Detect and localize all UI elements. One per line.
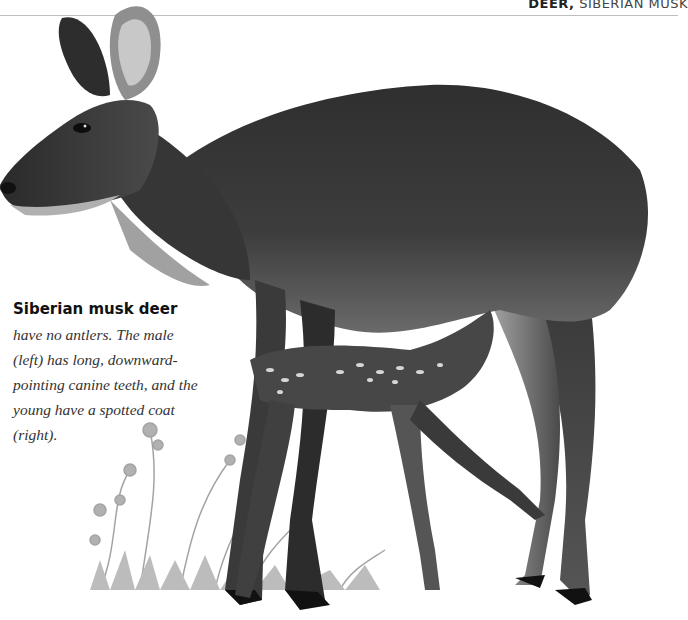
figure-caption: Siberian musk deer have no antlers. The …: [13, 296, 198, 447]
caption-text: have no antlers. The male (left) has lon…: [13, 326, 198, 443]
caption-lead: Siberian musk deer: [13, 300, 177, 318]
spotted-fawn: [235, 310, 545, 598]
